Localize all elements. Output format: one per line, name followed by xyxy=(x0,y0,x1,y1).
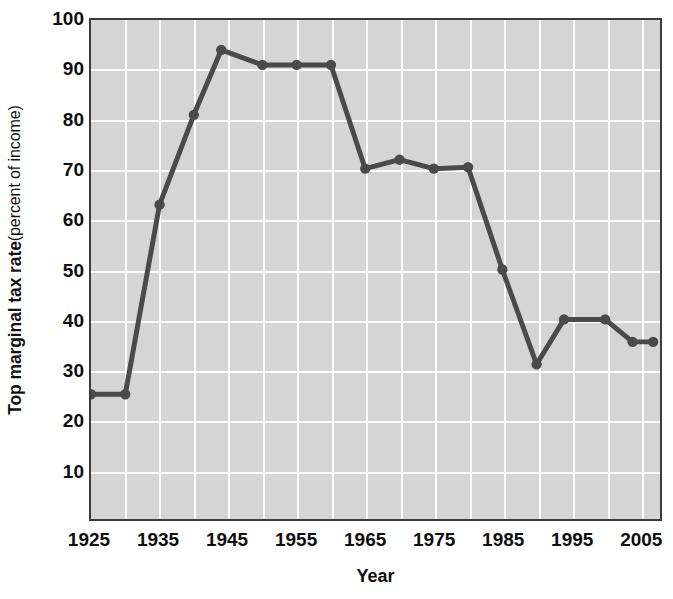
x-axis-tick-label: 1985 xyxy=(468,530,538,549)
y-axis-tick-label: 80 xyxy=(28,110,84,129)
data-point-marker xyxy=(326,60,336,70)
data-series-line xyxy=(91,20,660,519)
data-point-marker xyxy=(154,199,164,209)
data-point-marker xyxy=(292,60,302,70)
plot-inner xyxy=(91,20,660,519)
x-axis-tick-label: 1955 xyxy=(261,530,331,549)
data-point-marker xyxy=(360,164,370,174)
data-point-marker xyxy=(627,337,637,347)
y-axis-tick-labels: 100908070605040302010 xyxy=(26,0,84,599)
y-axis-tick-label: 60 xyxy=(28,210,84,229)
y-axis-tick-label: 50 xyxy=(28,261,84,280)
data-point-marker xyxy=(531,359,541,369)
x-axis-tick-label: 1965 xyxy=(330,530,400,549)
y-axis-tick-label: 40 xyxy=(28,311,84,330)
y-axis-tick-label: 100 xyxy=(28,9,84,28)
data-point-marker xyxy=(394,155,404,165)
x-axis-tick-label: 1945 xyxy=(192,530,262,549)
y-axis-title-unit: (percent of income) xyxy=(6,105,24,241)
y-axis-tick-label: 10 xyxy=(28,462,84,481)
series-line xyxy=(91,50,653,394)
data-point-marker xyxy=(648,337,658,347)
data-point-marker xyxy=(600,314,610,324)
x-axis-tick-label: 1995 xyxy=(537,530,607,549)
data-point-marker xyxy=(559,314,569,324)
y-axis-tick-label: 30 xyxy=(28,361,84,380)
y-axis-tick-label: 20 xyxy=(28,411,84,430)
chart-container: Top marginal tax rate (percent of income… xyxy=(0,0,673,599)
x-axis-tick-label: 1935 xyxy=(123,530,193,549)
data-point-marker xyxy=(91,389,96,399)
data-point-marker xyxy=(257,60,267,70)
x-axis-title: Year xyxy=(89,566,662,587)
y-axis-tick-label: 90 xyxy=(28,59,84,78)
data-point-marker xyxy=(497,264,507,274)
x-axis-tick-label: 1975 xyxy=(399,530,469,549)
data-point-marker xyxy=(216,45,226,55)
y-axis-tick-label: 70 xyxy=(28,160,84,179)
data-point-marker xyxy=(189,110,199,120)
x-axis-tick-label: 1925 xyxy=(54,530,124,549)
x-axis-tick-label: 2005 xyxy=(606,530,673,549)
y-axis-title-main: Top marginal tax rate xyxy=(5,241,26,415)
data-point-marker xyxy=(120,389,130,399)
data-point-marker xyxy=(429,164,439,174)
x-axis-tick-labels: 192519351945195519651975198519952005 xyxy=(89,530,662,556)
plot-area xyxy=(89,18,662,521)
data-point-marker xyxy=(463,162,473,172)
